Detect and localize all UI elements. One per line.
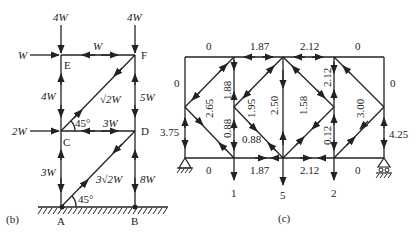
member-label: 0: [206, 164, 212, 176]
member-label: 1.87: [250, 40, 270, 52]
member-label: 1.58: [297, 95, 309, 115]
member-label: 8W: [140, 173, 156, 185]
load-label: 5: [280, 189, 286, 201]
arrow-icon: [219, 143, 226, 150]
arrow-icon: [312, 121, 320, 129]
arrow-icon: [343, 66, 350, 73]
arrow-icon: [114, 68, 122, 76]
arrow-icon: [249, 123, 257, 131]
arrow-icon: [113, 144, 122, 153]
arrow-icon: [268, 143, 275, 150]
member-label: 3.75: [160, 126, 180, 138]
node-label: F: [141, 49, 147, 61]
load-label: 4W: [127, 11, 143, 23]
member-label: 4W: [41, 90, 57, 102]
arrow-icon: [196, 118, 203, 125]
figure-caption: (c): [278, 212, 291, 225]
member-label: 1.88: [221, 80, 233, 100]
load-label: 1: [231, 187, 237, 199]
member-label: 0: [355, 164, 361, 176]
arrow-icon: [347, 137, 355, 145]
member-label: 0.88: [242, 133, 262, 145]
support-A: [60, 205, 65, 210]
frame-b: 4W 4W W 2W E F C D A B W 4W √2W 5W 3W 3W…: [6, 11, 168, 227]
member-label: 2.12: [321, 68, 333, 87]
member-label: 3.00: [354, 98, 366, 118]
angle-arc-A: [72, 196, 76, 207]
diagram-canvas: 4W 4W W 2W E F C D A B W 4W √2W 5W 3W 3W…: [0, 0, 419, 240]
member-label: 4.25: [389, 128, 409, 140]
member-label: 0: [390, 77, 396, 89]
node-label: E: [64, 59, 71, 71]
member-label: W: [93, 40, 103, 52]
member-FC: [61, 55, 135, 131]
member-label: 3W: [40, 166, 57, 178]
member-label: 0.12: [321, 126, 333, 145]
member-label: 5W: [140, 91, 156, 103]
load-label: 4W: [53, 11, 69, 23]
arrow-icon: [192, 92, 200, 100]
arrow-icon: [243, 90, 251, 98]
node-label: C: [63, 136, 70, 148]
arrow-icon: [266, 66, 274, 74]
member-label: 0: [355, 40, 361, 52]
arrow-icon: [292, 66, 299, 73]
member-label: 3W: [102, 117, 119, 129]
node-label: A: [57, 215, 65, 227]
node-label: D: [141, 125, 149, 137]
member-label: 0: [174, 77, 180, 89]
figure-caption: (b): [6, 213, 19, 226]
arrow-icon: [317, 90, 325, 98]
arrow-icon: [296, 137, 304, 145]
member-label: 1.87: [250, 164, 270, 176]
member-label: 2.50: [268, 95, 280, 115]
member-label: 0.88: [221, 118, 233, 138]
angle-label: 45°: [78, 193, 93, 205]
member-DA: [61, 131, 135, 207]
member-label: 1.95: [245, 98, 257, 118]
roller-support-icon: [376, 158, 392, 178]
support-B: [133, 205, 138, 210]
member-label: √2W: [100, 93, 122, 105]
member-label: 0: [206, 40, 212, 52]
member-label: 2.12: [300, 164, 319, 176]
member-label: 2.65: [203, 98, 215, 118]
arrow-icon: [219, 64, 227, 72]
member-label: 3√2W: [95, 173, 123, 185]
load-label: 2: [331, 187, 337, 199]
load-label: W: [18, 49, 28, 61]
member-label: 2.12: [300, 40, 319, 52]
truss-c: 0 1.87 2.12 0 0 1.87 2.12 0 0 3.75 0 4.2…: [160, 40, 409, 225]
load-label: 2W: [12, 125, 28, 137]
ground-hatch: [38, 208, 167, 214]
angle-label: 45°: [75, 117, 90, 129]
arrow-icon: [80, 180, 88, 188]
pin-support-icon: [177, 158, 193, 173]
node-label: B: [131, 215, 138, 227]
